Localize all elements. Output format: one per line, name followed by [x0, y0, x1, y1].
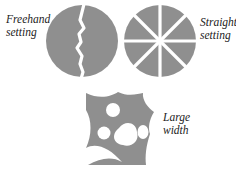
- straight-label: Straight setting: [200, 16, 236, 42]
- large-width-label: Large width: [163, 111, 190, 137]
- freehand-label: Freehand setting: [6, 13, 50, 39]
- large-width-figure: [86, 92, 154, 165]
- straight-label-line1: Straight: [200, 16, 236, 29]
- freehand-label-line2: setting: [6, 26, 50, 39]
- freehand-circle-figure: [46, 4, 118, 79]
- straight-label-line2: setting: [200, 29, 236, 42]
- large-width-label-line2: width: [163, 124, 190, 137]
- freehand-label-line1: Freehand: [6, 13, 50, 26]
- large-width-label-line1: Large: [163, 111, 190, 124]
- straight-circle-figure: [122, 3, 198, 79]
